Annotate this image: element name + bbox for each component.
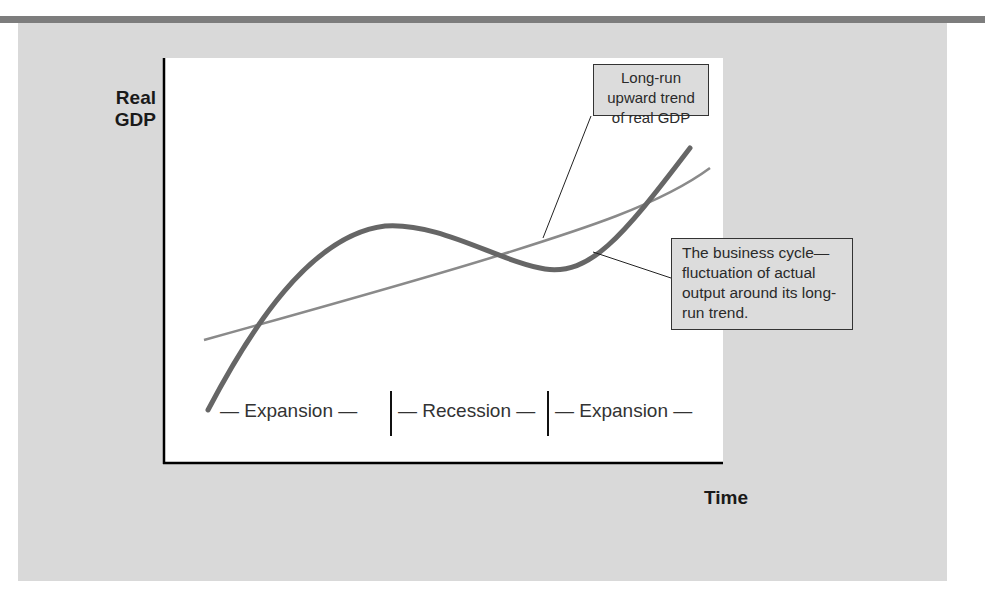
phase-expansion-2: — Expansion —: [555, 400, 692, 422]
phase-recession: — Recession —: [398, 400, 535, 422]
y-axis-label: Real GDP: [96, 87, 156, 131]
phase-expansion-1: — Expansion —: [220, 400, 357, 422]
trend-callout: Long-run upward trend of real GDP: [593, 64, 709, 116]
trend-leader-line: [543, 116, 591, 238]
actual-output-curve: [208, 148, 690, 410]
cycle-leader-line: [593, 252, 671, 278]
business-cycle-callout: The business cycle—fluctuation of actual…: [671, 238, 853, 330]
x-axis-label: Time: [668, 487, 748, 509]
y-axis-label-line2: GDP: [96, 109, 156, 131]
y-axis-label-line1: Real: [96, 87, 156, 109]
trend-curve: [204, 168, 710, 340]
